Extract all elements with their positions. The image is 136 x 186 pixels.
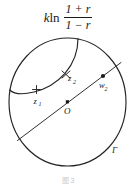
center-point-marker xyxy=(66,100,69,103)
point-w2-subscript: 2 xyxy=(105,86,108,92)
point-z1-label: z xyxy=(33,96,38,106)
circle-gamma-label: Γ xyxy=(111,145,118,155)
figure-container: kln1 + r1 − r O z 1 z 2 w 2 Γ 图 3 xyxy=(0,0,136,186)
formula-function: ln xyxy=(49,10,60,25)
point-w2-marker xyxy=(101,74,105,78)
geodesic-arc xyxy=(10,39,78,94)
formula-numerator: 1 + r xyxy=(64,3,93,18)
point-z2-label: z xyxy=(67,73,72,83)
geometry-diagram: O z 1 z 2 w 2 Γ xyxy=(0,26,136,171)
point-z1-subscript: 1 xyxy=(39,101,42,107)
figure-caption: 图 3 xyxy=(0,177,136,185)
point-z2-subscript: 2 xyxy=(73,79,76,85)
center-label: O xyxy=(64,106,71,116)
